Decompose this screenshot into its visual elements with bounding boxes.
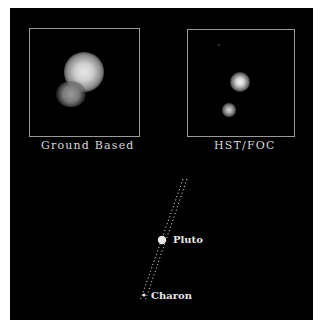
- figure-panel: Ground Based HST/FOC Pluto Charon: [10, 8, 313, 320]
- label-pluto: Pluto: [173, 234, 203, 245]
- pluto-marker: [158, 236, 166, 244]
- charon-marker: [142, 293, 145, 296]
- orbit-diagram: [10, 8, 313, 320]
- label-charon: Charon: [151, 290, 192, 301]
